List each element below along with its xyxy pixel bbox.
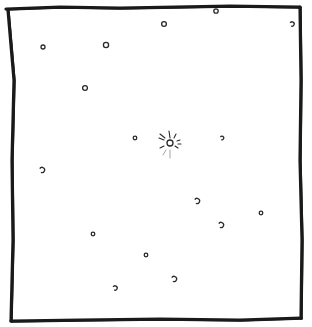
circle-mark (133, 136, 137, 140)
circle-mark (83, 86, 88, 91)
scattered-circles (40, 9, 294, 290)
faint-ray-mark (163, 150, 166, 155)
circle-mark (214, 9, 218, 13)
circle-mark (195, 198, 200, 203)
circle-mark (40, 167, 45, 172)
ray-mark (169, 131, 170, 138)
circle-mark (220, 136, 223, 140)
circle-mark (103, 42, 108, 47)
circle-mark (91, 232, 95, 236)
circle-mark (172, 276, 177, 281)
square-frame (6, 6, 303, 322)
ray-mark (177, 140, 180, 141)
ray-mark (174, 134, 176, 138)
circle-mark (259, 211, 263, 215)
ray-mark (159, 138, 164, 140)
circle-mark (290, 22, 294, 26)
ray-mark (160, 134, 165, 138)
circle-mark (144, 253, 148, 257)
ray-mark (175, 146, 178, 148)
center-burst-icon (159, 131, 181, 158)
circle-mark (219, 222, 224, 227)
circle-mark (162, 22, 167, 27)
sketch-canvas (0, 0, 312, 327)
circle-mark (41, 45, 45, 49)
center-circle (167, 140, 173, 146)
circle-mark (113, 286, 117, 290)
ray-mark (160, 146, 164, 148)
